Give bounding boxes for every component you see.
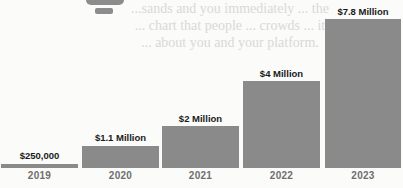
year-label-2023: 2023 bbox=[325, 170, 401, 181]
bar-2020 bbox=[82, 146, 159, 168]
year-label-2021: 2021 bbox=[162, 170, 239, 181]
bar-2019 bbox=[1, 164, 78, 168]
bar-value-label-2019: $250,000 bbox=[1, 150, 78, 161]
year-label-2022: 2022 bbox=[243, 170, 320, 181]
bar-value-label-2023: $7.8 Million bbox=[325, 6, 401, 17]
year-label-2019: 2019 bbox=[1, 170, 78, 181]
bar-2022 bbox=[243, 81, 320, 168]
bar-2021 bbox=[162, 126, 239, 168]
chart-canvas: ...sands and you immediately ... the ...… bbox=[0, 0, 403, 188]
lightbulb-icon-base bbox=[95, 8, 113, 14]
bar-value-label-2021: $2 Million bbox=[162, 113, 239, 124]
year-label-2020: 2020 bbox=[82, 170, 159, 181]
bar-value-label-2022: $4 Million bbox=[243, 68, 320, 79]
bar-2023 bbox=[325, 19, 401, 168]
bar-value-label-2020: $1.1 Million bbox=[82, 132, 159, 143]
lightbulb-icon-top bbox=[86, 0, 124, 5]
